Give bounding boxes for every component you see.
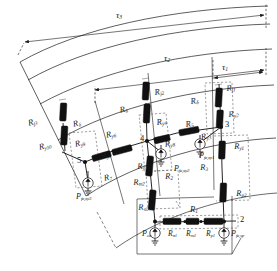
reluctance-Ry6: Ry6 (105, 129, 117, 140)
reluctance-Ry3: Ry3 (200, 131, 212, 142)
reluctance-Rsigma2: Rσ2 (138, 202, 149, 212)
reluctance-Ry2: Ry2 (228, 109, 239, 119)
reluctance-Rdelta2: Rδ (119, 105, 128, 116)
reluctance-R5: R5 (185, 119, 194, 130)
node-5: 5 (77, 156, 81, 165)
reluctance-Ry1: Ry1 (234, 142, 244, 152)
figure-canvas: τ3 τ2 τ1 3 4 5 2 Rj1 Ry2 Rδ Rj2 Ry4 Rδ R… (0, 0, 277, 271)
source-Pfexy3: Pfe,xy3 (76, 193, 91, 202)
pitch-label-tau1: τ1 (222, 63, 228, 73)
reluctance-Rj1: Rj1 (226, 83, 236, 93)
node-2: 2 (240, 215, 244, 224)
pitch-label-tau2: τ2 (164, 54, 170, 64)
reluctance-Ry7: Ry7 (137, 161, 147, 171)
source-Pcu: Pcu (142, 230, 151, 239)
source-Pfexy1: Pfe,xy1 (199, 152, 214, 161)
node-3: 3 (225, 120, 229, 129)
reluctance-Rp2: Rp2 (236, 189, 246, 199)
reluctance-Ry8: Ry8 (164, 138, 175, 149)
reluctance-Rp1: Rp1 (206, 230, 215, 239)
source-Pfexy2: Pfe,xy2 (174, 165, 189, 174)
reluctance-Rm2: Rm2 (133, 177, 145, 187)
pitch-label-tau3: τ3 (116, 11, 122, 21)
reluctance-R3: R3 (200, 163, 208, 173)
reluctance-Rj2: Rj2 (154, 87, 164, 98)
reluctance-Rdelta1: Rδ (190, 96, 199, 106)
source-Pfesp: Pfe,sp (231, 230, 244, 239)
reluctance-Rsigma1: Rσ1 (168, 230, 177, 239)
node-4: 4 (140, 134, 144, 143)
reluctance-Ry4: Ry4 (156, 117, 167, 128)
reluctance-R1: R1 (190, 205, 198, 214)
reluctance-R2: R2 (165, 172, 173, 182)
reluctance-Rm1: Rm1 (186, 230, 196, 239)
